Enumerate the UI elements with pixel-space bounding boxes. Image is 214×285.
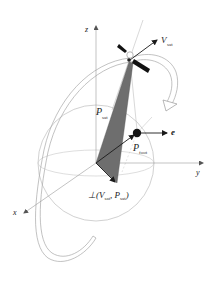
foot-point (133, 129, 141, 137)
z-axis-label: z (84, 25, 89, 34)
y-axis-label: y (195, 168, 200, 177)
velocity-vector (130, 40, 157, 60)
v-sat-sub: sat (167, 42, 173, 47)
e-label: e (171, 127, 175, 137)
x-axis (24, 163, 96, 213)
perp-label: ⊥(Vsat, Psat) (88, 190, 129, 201)
position-plane (96, 62, 133, 183)
curved-arrow-icon (163, 100, 177, 111)
orbit-diagram: z y x V sat P sat e P foot ⊥(Vsat, Psat) (0, 0, 214, 285)
x-axis-label: x (12, 208, 17, 217)
p-foot-sub: foot (139, 150, 148, 155)
p-sat-sub: sat (102, 115, 108, 120)
